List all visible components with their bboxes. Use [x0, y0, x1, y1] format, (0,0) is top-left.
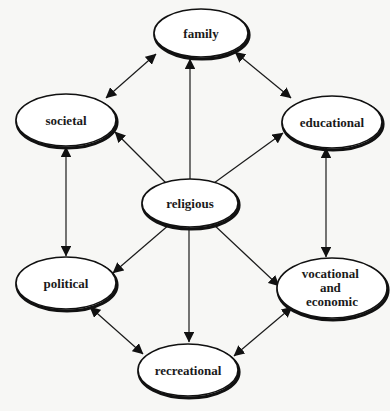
edge-religious-to-vocational	[212, 223, 279, 286]
edge-family-educational	[235, 52, 291, 98]
node-label-line-1: vocational	[302, 266, 359, 281]
node-label-educational: educational	[300, 115, 365, 130]
edge-religious-to-educational	[214, 133, 283, 183]
node-societal: societal	[16, 94, 117, 148]
edge-vocational-recreational	[234, 307, 292, 356]
node-label-religious: religious	[166, 196, 213, 211]
node-label-line-2: and	[320, 280, 342, 295]
node-recreational: recreational	[138, 344, 239, 398]
node-vocational-and-economic: vocational and economic	[277, 258, 388, 320]
node-family: family	[154, 9, 249, 59]
edge-family-societal	[106, 54, 156, 98]
node-label-recreational: recreational	[155, 363, 222, 378]
node-label-family: family	[183, 26, 219, 41]
node-label-societal: societal	[45, 113, 87, 128]
edge-political-recreational	[90, 307, 143, 354]
node-label-line-3: economic	[306, 294, 358, 309]
life-domains-diagram: family societal educational religious po…	[0, 0, 390, 411]
node-religious: religious	[142, 179, 239, 229]
edge-religious-to-political	[113, 224, 170, 273]
node-educational: educational	[282, 96, 383, 150]
node-political: political	[16, 257, 117, 311]
node-label-political: political	[44, 276, 89, 291]
edge-religious-to-societal	[115, 132, 166, 183]
